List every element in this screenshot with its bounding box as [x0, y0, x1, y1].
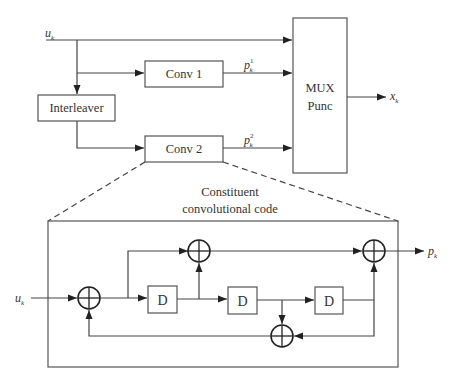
constituent-code-detail: uk D D [0, 0, 438, 367]
d3-to-xor4 [343, 263, 374, 300]
interleaver-label: Interleaver [49, 101, 104, 115]
xor1-icon [78, 287, 100, 309]
constituent-output-label-pk: pk [427, 244, 438, 260]
parity1-label: p1k [243, 57, 254, 74]
constituent-input-uk: uk [15, 291, 25, 307]
xor2-icon [188, 240, 210, 262]
delay2-label: D [237, 294, 247, 309]
xor4-icon [363, 240, 385, 262]
zoom-dash-left [48, 162, 145, 221]
interleaver-to-conv2-line [77, 121, 144, 148]
conv1-label: Conv 1 [166, 67, 202, 81]
parity2-label: p2k [243, 132, 254, 149]
xor3-icon [271, 325, 293, 347]
constituent-frame [48, 221, 398, 367]
caption-line1: Constituent [201, 185, 259, 199]
caption-line2: convolutional code [182, 202, 278, 216]
mux-label: MUX [305, 81, 334, 95]
conv2-label: Conv 2 [166, 142, 202, 156]
delay1-label: D [157, 293, 167, 308]
top-encoder: uk Conv 1 p1k Interleaver Conv 2 p2k [38, 18, 399, 173]
turbo-encoder-diagram: uk Conv 1 p1k Interleaver Conv 2 p2k [0, 0, 453, 387]
output-label-xk: xk [389, 89, 399, 105]
punc-label: Punc [308, 99, 333, 113]
delay3-label: D [324, 294, 334, 309]
mux-punc-block [293, 18, 347, 173]
